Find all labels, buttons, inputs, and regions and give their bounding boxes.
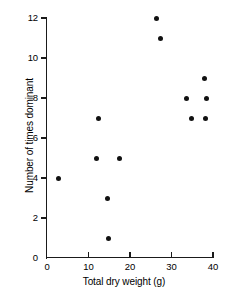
data-point bbox=[94, 156, 99, 161]
data-point bbox=[202, 76, 207, 81]
x-axis-tick-label: 0 bbox=[32, 262, 62, 272]
x-axis-tick-label: 10 bbox=[74, 262, 104, 272]
scatter-plot-figure: 024681012 010203040 Total dry weight (g)… bbox=[0, 0, 248, 301]
data-point bbox=[106, 236, 111, 241]
data-point bbox=[189, 116, 194, 121]
data-point bbox=[56, 176, 61, 181]
x-axis-tick-label: 30 bbox=[157, 262, 187, 272]
data-point bbox=[117, 156, 122, 161]
plot-data-area bbox=[47, 18, 213, 258]
data-point bbox=[184, 96, 189, 101]
x-axis-title: Total dry weight (g) bbox=[0, 276, 248, 287]
data-point bbox=[158, 36, 163, 41]
data-point bbox=[203, 116, 208, 121]
data-point bbox=[154, 16, 159, 21]
x-axis-tick-label: 40 bbox=[198, 262, 228, 272]
y-axis-title: Number of times dominant bbox=[24, 36, 35, 236]
y-axis-tick-label: 12 bbox=[0, 13, 38, 23]
data-point bbox=[204, 96, 209, 101]
x-axis-tick-label: 20 bbox=[115, 262, 145, 272]
data-point bbox=[105, 196, 110, 201]
data-point bbox=[96, 116, 101, 121]
